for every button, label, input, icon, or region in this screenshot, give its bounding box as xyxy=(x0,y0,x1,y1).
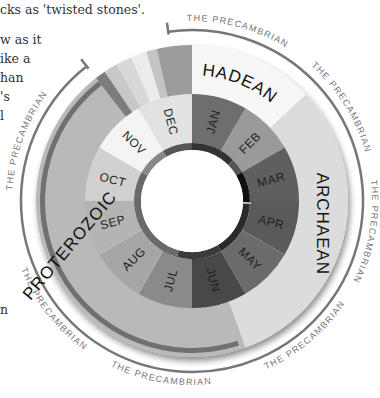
geological-clock-chart: JANFEBMARAPRMAYJUNJULAUGSEPOCTNOVDECHADE… xyxy=(0,0,380,398)
eon-label-archaean: ARCHAEAN xyxy=(312,173,331,275)
precambrian-arc-endcap xyxy=(167,23,169,35)
precambrian-arc-label: THE PRECAMBRIAN xyxy=(351,179,380,285)
center-hole xyxy=(141,150,243,252)
